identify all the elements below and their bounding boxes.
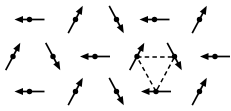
- lattice-site-dot: [212, 54, 217, 59]
- lattice-site-dot: [27, 17, 32, 22]
- lattice-site-dot: [134, 54, 139, 59]
- lattice-site-dot: [73, 89, 78, 94]
- lattice-site-dot: [73, 17, 78, 22]
- lattice-site-dot: [114, 89, 119, 94]
- lattice-site-dot: [114, 17, 119, 22]
- lattice-site-dot: [197, 89, 202, 94]
- lattice-canvas: [0, 0, 231, 111]
- lattice-site-dot: [152, 17, 157, 22]
- lattice-site-dot: [153, 89, 158, 94]
- lattice-site-dot: [27, 89, 32, 94]
- lattice-site-dot: [50, 54, 55, 59]
- lattice-site-dot: [197, 17, 202, 22]
- spin-lattice-figure: [0, 0, 231, 111]
- lattice-site-dot: [92, 54, 97, 59]
- lattice-site-dot: [10, 54, 15, 59]
- lattice-site-dot: [172, 54, 177, 59]
